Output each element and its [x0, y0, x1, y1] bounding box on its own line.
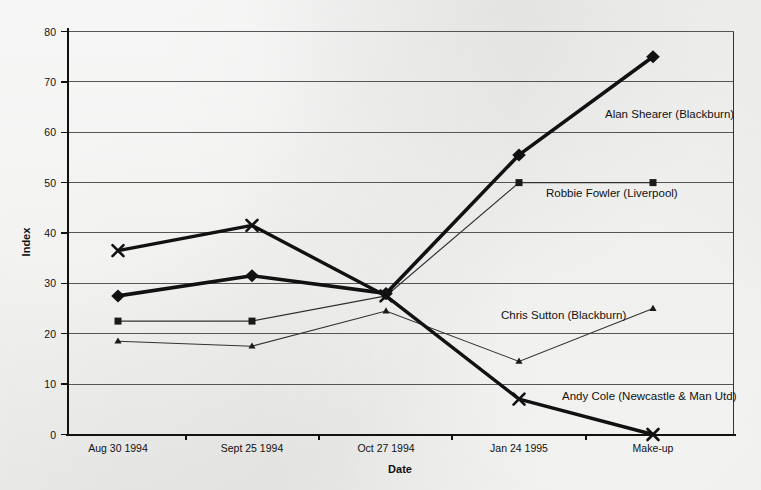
- x-tick-oct-27-1994: Oct 27 1994: [357, 442, 414, 454]
- chart-page: 80 70 60 50 40 30 20 10 0 Aug 30 1994 Se…: [0, 0, 761, 490]
- x-tick-make-up: Make-up: [633, 442, 674, 454]
- series-line-andy-cole: [118, 225, 653, 434]
- y-tick-30: 30: [44, 277, 56, 289]
- series-markers-andy-cole: [113, 220, 659, 440]
- x-tick-jan-24-1995: Jan 24 1995: [490, 442, 548, 454]
- x-tick-sept-25-1994: Sept 25 1994: [221, 442, 284, 454]
- y-tick-marks: [61, 32, 68, 435]
- series-label-alan-shearer: Alan Shearer (Blackburn): [605, 108, 734, 120]
- y-tick-20: 20: [44, 328, 56, 340]
- x-tick-labels: Aug 30 1994 Sept 25 1994 Oct 27 1994 Jan…: [88, 442, 673, 454]
- series-line-robbie-fowler: [118, 183, 653, 322]
- x-tick-aug-30-1994: Aug 30 1994: [88, 442, 148, 454]
- series-label-chris-sutton: Chris Sutton (Blackburn): [501, 309, 626, 321]
- y-tick-0: 0: [50, 429, 56, 441]
- y-tick-60: 60: [44, 126, 56, 138]
- line-chart: 80 70 60 50 40 30 20 10 0 Aug 30 1994 Se…: [0, 0, 761, 490]
- series-markers-alan-shearer: [111, 50, 660, 302]
- y-axis-title: Index: [20, 227, 32, 257]
- y-tick-50: 50: [44, 177, 56, 189]
- y-tick-10: 10: [44, 378, 56, 390]
- y-tick-40: 40: [44, 227, 56, 239]
- x-axis-title: Date: [388, 463, 412, 475]
- series-label-robbie-fowler: Robbie Fowler (Liverpool): [546, 187, 678, 199]
- series-markers-robbie-fowler: [115, 179, 657, 325]
- y-tick-70: 70: [44, 76, 56, 88]
- series-alan-shearer: [111, 50, 660, 302]
- series-label-andy-cole: Andy Cole (Newcastle & Man Utd): [562, 390, 737, 402]
- gridlines: [68, 32, 734, 385]
- series-robbie-fowler: [115, 179, 657, 325]
- series-line-alan-shearer: [118, 57, 653, 296]
- y-tick-80: 80: [44, 26, 56, 38]
- y-tick-labels: 80 70 60 50 40 30 20 10 0: [44, 26, 56, 441]
- axis-lines: [66, 28, 736, 436]
- series-andy-cole: [113, 220, 659, 440]
